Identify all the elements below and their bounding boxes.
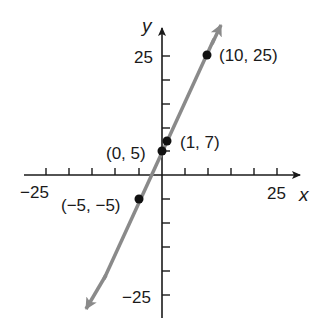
point-label-10-25: (10, 25) — [219, 46, 278, 65]
line-arrow-bottom — [86, 275, 106, 309]
y-axis-label: y — [140, 15, 153, 36]
point-1-7 — [163, 137, 172, 146]
coordinate-plane: y x 25 −25 −25 25 (−5, −5) (0, 5) (1, 7)… — [0, 0, 330, 333]
point-10-25 — [203, 51, 212, 60]
x-max-label: 25 — [267, 184, 286, 203]
point-neg5-neg5 — [135, 195, 144, 204]
x-axis-label: x — [298, 184, 310, 205]
y-max-label: 25 — [134, 48, 153, 67]
x-min-label: −25 — [20, 183, 49, 202]
point-label-1-7: (1, 7) — [180, 133, 220, 152]
point-label-neg5-neg5: (−5, −5) — [61, 196, 121, 215]
point-0-5 — [158, 147, 167, 156]
y-min-label: −25 — [122, 288, 151, 307]
line-arrow-top — [212, 25, 221, 44]
point-label-0-5: (0, 5) — [106, 144, 146, 163]
